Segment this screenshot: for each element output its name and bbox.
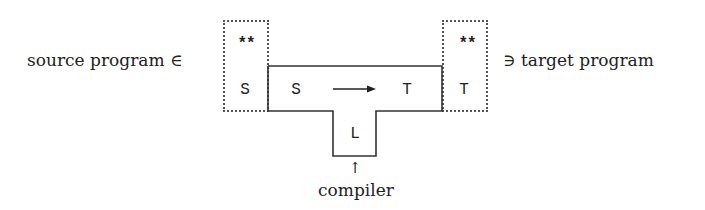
compiler-target-lang: T bbox=[397, 80, 417, 100]
t-diagram: source program ∈ ∋ target program ** S *… bbox=[0, 0, 705, 210]
up-arrow-icon: ↑ bbox=[348, 160, 362, 176]
compiler-implementation-lang: L bbox=[345, 124, 365, 144]
compiler-label: compiler bbox=[318, 180, 394, 200]
compiler-t-shape bbox=[0, 0, 705, 210]
compiler-source-lang: S bbox=[286, 80, 306, 100]
